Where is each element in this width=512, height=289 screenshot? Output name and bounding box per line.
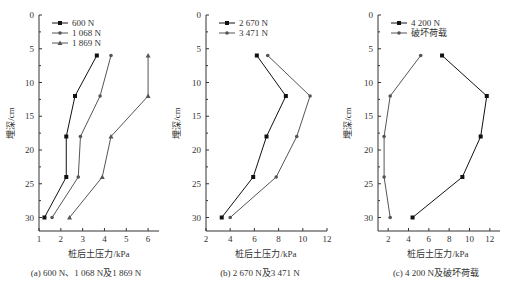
circle-marker-icon xyxy=(388,216,392,220)
chart-figure: 051015202530123456桩后土压力/kPa埋深/cm(a) 600 … xyxy=(0,0,512,289)
legend-label: 2 670 N xyxy=(239,18,269,28)
y-tick-label: 30 xyxy=(364,213,374,223)
x-tick-label: 10 xyxy=(298,234,308,244)
x-axis-label: 桩后土压力/kPa xyxy=(68,248,129,259)
legend-label: 破坏荷载 xyxy=(411,27,447,38)
circle-marker-icon xyxy=(228,216,232,220)
circle-marker-icon xyxy=(225,31,229,35)
triangle-marker-icon xyxy=(146,53,151,58)
y-tick-label: 20 xyxy=(25,145,35,155)
y-tick-label: 25 xyxy=(192,179,202,189)
y-axis-label: 埋深/cm xyxy=(343,107,353,139)
square-marker-icon xyxy=(440,54,444,58)
circle-marker-icon xyxy=(98,94,102,98)
circle-marker-icon xyxy=(397,31,401,35)
y-tick-label: 25 xyxy=(25,179,35,189)
x-tick-label: 6 xyxy=(427,234,432,244)
x-tick-label: 6 xyxy=(252,234,257,244)
chart-panel-3: 05101520253024681012桩后土压力/kPa埋深/cm(c) 4 … xyxy=(343,10,500,278)
y-tick-label: 5 xyxy=(30,44,35,54)
square-marker-icon xyxy=(411,216,415,220)
x-tick-label: 8 xyxy=(276,234,281,244)
x-tick-label: 3 xyxy=(80,234,85,244)
x-tick-label: 4 xyxy=(228,234,233,244)
x-tick-label: 1 xyxy=(37,234,42,244)
circle-marker-icon xyxy=(419,54,423,58)
y-tick-label: 10 xyxy=(364,78,374,88)
x-tick-label: 12 xyxy=(323,234,332,244)
x-tick-label: 5 xyxy=(124,234,129,244)
circle-marker-icon xyxy=(266,54,270,58)
x-tick-label: 4 xyxy=(406,234,411,244)
y-axis-label: 埋深/cm xyxy=(172,107,182,139)
square-marker-icon xyxy=(58,21,62,25)
y-tick-label: 15 xyxy=(364,111,374,121)
square-marker-icon xyxy=(479,135,483,139)
square-marker-icon xyxy=(284,94,288,98)
square-marker-icon xyxy=(251,175,255,179)
y-tick-label: 15 xyxy=(25,111,35,121)
y-tick-label: 10 xyxy=(192,78,202,88)
panel-caption: (a) 600 N、1 068 N及1 869 N xyxy=(31,268,142,278)
circle-marker-icon xyxy=(295,135,299,139)
x-tick-label: 12 xyxy=(485,234,494,244)
square-marker-icon xyxy=(64,175,68,179)
legend-label: 1 068 N xyxy=(72,28,102,38)
y-tick-label: 10 xyxy=(25,78,35,88)
x-axis-label: 桩后土压力/kPa xyxy=(407,248,468,259)
chart-panel-1: 051015202530123456桩后土压力/kPa埋深/cm(a) 600 … xyxy=(6,10,159,278)
square-marker-icon xyxy=(42,216,46,220)
square-marker-icon xyxy=(485,94,489,98)
circle-marker-icon xyxy=(388,94,392,98)
circle-marker-icon xyxy=(308,94,312,98)
panel-caption: (b) 2 670 N及3 471 N xyxy=(220,268,300,278)
legend-label: 4 200 N xyxy=(411,18,441,28)
circle-marker-icon xyxy=(382,135,386,139)
x-tick-label: 10 xyxy=(465,234,475,244)
y-tick-label: 20 xyxy=(192,145,202,155)
x-axis-label: 桩后土压力/kPa xyxy=(235,248,296,259)
circle-marker-icon xyxy=(58,31,62,35)
panel-caption: (c) 4 200 N及破坏荷载 xyxy=(393,267,479,278)
x-tick-label: 8 xyxy=(447,234,452,244)
square-marker-icon xyxy=(460,175,464,179)
x-tick-label: 2 xyxy=(204,234,209,244)
circle-marker-icon xyxy=(79,135,83,139)
y-tick-label: 25 xyxy=(364,179,374,189)
circle-marker-icon xyxy=(274,175,278,179)
x-tick-label: 2 xyxy=(59,234,64,244)
y-axis-label: 埋深/cm xyxy=(6,107,16,139)
legend-label: 600 N xyxy=(72,18,95,28)
triangle-marker-icon xyxy=(146,94,151,99)
triangle-marker-icon xyxy=(100,175,105,180)
x-tick-label: 2 xyxy=(386,234,391,244)
y-tick-label: 0 xyxy=(30,10,35,20)
series-line xyxy=(222,56,286,218)
y-tick-label: 0 xyxy=(197,10,202,20)
y-tick-label: 30 xyxy=(25,213,35,223)
square-marker-icon xyxy=(64,135,68,139)
square-marker-icon xyxy=(397,21,401,25)
circle-marker-icon xyxy=(109,54,113,58)
y-tick-label: 30 xyxy=(192,213,202,223)
y-tick-label: 15 xyxy=(192,111,202,121)
y-tick-label: 0 xyxy=(369,10,374,20)
series-line xyxy=(384,56,421,218)
x-tick-label: 6 xyxy=(146,234,151,244)
square-marker-icon xyxy=(225,21,229,25)
x-tick-label: 4 xyxy=(102,234,107,244)
square-marker-icon xyxy=(255,54,259,58)
legend-label: 1 869 N xyxy=(72,38,102,48)
square-marker-icon xyxy=(95,54,99,58)
y-tick-label: 20 xyxy=(364,145,374,155)
circle-marker-icon xyxy=(382,175,386,179)
y-tick-label: 5 xyxy=(369,44,374,54)
circle-marker-icon xyxy=(50,216,54,220)
square-marker-icon xyxy=(73,94,77,98)
square-marker-icon xyxy=(220,216,224,220)
square-marker-icon xyxy=(265,135,269,139)
chart-panel-2: 05101520253024681012桩后土压力/kPa埋深/cm(b) 2 … xyxy=(172,10,332,278)
legend-label: 3 471 N xyxy=(239,28,269,38)
series-line xyxy=(413,56,487,218)
circle-marker-icon xyxy=(76,175,80,179)
